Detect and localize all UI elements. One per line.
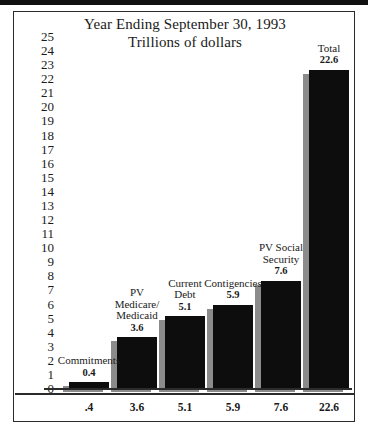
bar-annotation-name: Security [237, 254, 325, 266]
top-black-rule [0, 0, 368, 5]
bars-layer [14, 12, 356, 389]
bar-annotation-value: 22.6 [285, 54, 368, 66]
bar-annotation-value: 0.4 [45, 367, 133, 379]
bar-annotation: Contigencies5.9 [189, 278, 277, 301]
plot-area: 2524232221201918171615141312111098765432… [14, 12, 356, 423]
x-tick-label: 5.1 [161, 401, 209, 413]
x-axis-line [44, 388, 352, 390]
bar-body [309, 70, 349, 388]
x-tick-label: 3.6 [113, 401, 161, 413]
bar-annotation-value: 7.6 [237, 265, 325, 277]
x-tick-label: 7.6 [257, 401, 305, 413]
bar-body [213, 305, 253, 388]
bar-annotation: Commitments0.4 [45, 355, 133, 378]
bar-annotation-name: Commitments [45, 355, 133, 367]
bar-annotation-value: 5.9 [189, 289, 277, 301]
bar [309, 70, 349, 388]
bar [213, 305, 253, 388]
x-tick-label: .4 [65, 401, 113, 413]
x-tick-label: 22.6 [305, 401, 353, 413]
bar-annotation-value: 5.1 [141, 301, 229, 313]
bar-annotation: PV SocialSecurity7.6 [237, 242, 325, 277]
x-tick-label: 5.9 [209, 401, 257, 413]
bar-annotation-value: 3.6 [93, 322, 181, 334]
bar-annotation: Total22.6 [285, 43, 368, 66]
figure-page: Year Ending September 30, 1993 Trillions… [0, 0, 368, 433]
figure-frame: Year Ending September 30, 1993 Trillions… [13, 11, 355, 422]
x-label-separator-rule [15, 393, 355, 395]
bar-annotation-name: Total [285, 43, 368, 55]
bar-annotation-name: Contigencies [189, 278, 277, 290]
